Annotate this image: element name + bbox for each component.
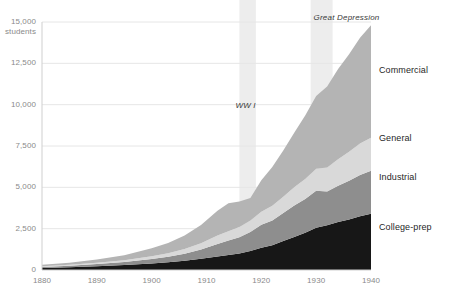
y-axis-label-2500: 2,500 (15, 224, 36, 234)
stacked-area-chart: 15,000 students 12,500 10,000 7,500 5,00… (0, 0, 451, 304)
y-axis-label-0: 0 (31, 265, 36, 275)
series-label-commercial: Commercial (379, 65, 428, 75)
x-axis-label-1910: 1910 (187, 276, 227, 285)
x-axis-label-1930: 1930 (296, 276, 336, 285)
x-axis-label-1920: 1920 (241, 276, 281, 285)
chart-plot-area (0, 0, 451, 304)
annotation-label-great-depression: Great Depression (314, 13, 380, 22)
x-axis-label-1890: 1890 (77, 276, 117, 285)
y-axis-label-10000: 10,000 (11, 100, 36, 110)
y-axis-label-7500: 7,500 (15, 141, 36, 151)
series-label-industrial: Industrial (379, 172, 417, 182)
y-axis-label-12500: 12,500 (11, 58, 36, 68)
y-axis-label-top: 15,000 students (5, 17, 36, 36)
annotation-label-ww1: WW I (235, 101, 255, 110)
y-axis-label-5000: 5,000 (15, 182, 36, 192)
x-axis-label-1880: 1880 (22, 276, 62, 285)
series-label-general: General (379, 133, 412, 143)
x-axis-label-1940: 1940 (351, 276, 391, 285)
series-label-college-prep: College-prep (379, 222, 432, 232)
x-axis-label-1900: 1900 (132, 276, 172, 285)
